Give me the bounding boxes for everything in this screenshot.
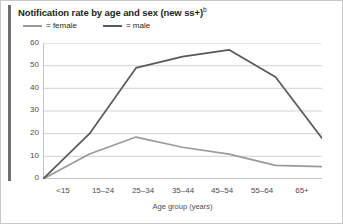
y-tick-label-20: 20 bbox=[17, 129, 39, 137]
chart-title-text: Notification rate by age and sex (new ss… bbox=[18, 7, 203, 18]
y-tick-label-30: 30 bbox=[17, 106, 39, 114]
x-tick-label-2: 25–34 bbox=[132, 187, 154, 195]
legend-swatch-female bbox=[23, 25, 42, 27]
y-tick-label-60: 60 bbox=[17, 39, 39, 47]
x-tick-label-0: <15 bbox=[56, 187, 70, 195]
legend-item-female: = female bbox=[23, 22, 77, 30]
x-tick-label-5: 55–64 bbox=[251, 187, 273, 195]
y-tick-label-40: 40 bbox=[17, 84, 39, 92]
series-line-female bbox=[43, 137, 322, 179]
chart-title: Notification rate by age and sex (new ss… bbox=[18, 7, 207, 18]
x-axis-title: Age group (years) bbox=[43, 202, 322, 211]
x-tick-label-1: 15–24 bbox=[92, 187, 114, 195]
chart-legend: = female = male bbox=[23, 22, 150, 30]
legend-label-female: = female bbox=[46, 22, 77, 30]
chart-figure: Notification rate by age and sex (new ss… bbox=[0, 0, 343, 224]
series-line-male bbox=[43, 50, 322, 179]
x-tick-label-3: 35–44 bbox=[172, 187, 194, 195]
x-tick-label-4: 45–54 bbox=[211, 187, 233, 195]
legend-label-male: = male bbox=[126, 22, 150, 30]
left-edge-rule bbox=[8, 5, 11, 181]
legend-swatch-male bbox=[103, 25, 122, 27]
y-tick-label-50: 50 bbox=[17, 61, 39, 69]
y-tick-label-10: 10 bbox=[17, 152, 39, 160]
chart-svg bbox=[43, 43, 322, 179]
plot-area bbox=[43, 43, 322, 179]
legend-item-male: = male bbox=[103, 22, 150, 30]
chart-title-footnote-marker: b bbox=[203, 6, 207, 13]
y-tick-label-0: 0 bbox=[17, 174, 39, 182]
x-tick-label-6: 65+ bbox=[295, 187, 309, 195]
